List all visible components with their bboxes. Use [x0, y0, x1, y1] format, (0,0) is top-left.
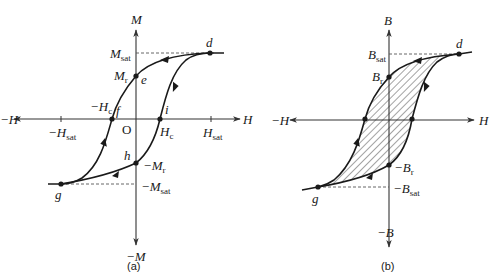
origin-label: O: [122, 122, 131, 137]
panel-a: M −M H −H O Msat Mr −Mr −Msat −Hc Hc Hsa…: [0, 12, 253, 272]
point-h: [133, 160, 138, 165]
neg-b-r-label: −Br: [394, 160, 414, 177]
point-g: [58, 181, 63, 186]
point-g-label: g: [312, 191, 319, 206]
point-g-label: g: [55, 187, 62, 202]
m-axis-label: M: [130, 12, 143, 27]
neg-h-axis-label: −H: [0, 112, 19, 127]
arrow-icon: [100, 137, 109, 147]
point-e: [133, 73, 138, 78]
neg-b-axis-label: −B: [377, 225, 394, 240]
point-d: [456, 51, 461, 56]
m-sat-label: Msat: [109, 46, 131, 63]
point-e-label: e: [141, 72, 147, 87]
m-r-label: Mr: [113, 68, 128, 85]
point-d: [207, 50, 212, 55]
point-d-label: d: [456, 36, 463, 51]
neg-h-c-label: −Hc: [90, 99, 112, 116]
neg-h-axis-label: −H: [271, 113, 290, 128]
panel-b-caption: (b): [381, 260, 394, 272]
h-c-label: Hc: [159, 124, 173, 141]
panel-a-caption: (a): [127, 260, 140, 272]
point-h-c: [409, 116, 414, 121]
point-f: [109, 116, 114, 121]
point-i-label: i: [165, 102, 169, 117]
hysteresis-figure: M −M H −H O Msat Mr −Mr −Msat −Hc Hc Hsa…: [0, 0, 504, 278]
neg-b-sat-label: −Bsat: [393, 181, 420, 198]
b-sat-label: Bsat: [368, 47, 386, 64]
point-h-label: h: [124, 148, 131, 163]
point-neg-h-c: [362, 116, 367, 121]
point-f-label: f: [116, 103, 122, 118]
b-axis-label: B: [384, 13, 392, 28]
arrow-icon: [160, 56, 169, 63]
panel-b: B −B H −H Bsat Br −Br −Bsat d g (b): [271, 13, 489, 272]
h-sat-label: Hsat: [202, 125, 223, 142]
point-d-label: d: [206, 35, 213, 50]
point-b-r: [386, 74, 391, 79]
h-axis-label: H: [478, 113, 489, 128]
neg-m-r-label: −Mr: [143, 158, 166, 175]
neg-m-sat-label: −Msat: [141, 179, 171, 196]
b-r-label: Br: [372, 69, 383, 86]
point-neg-b-r: [386, 162, 391, 167]
point-i: [157, 116, 162, 121]
neg-h-sat-label: −Hsat: [48, 125, 77, 142]
h-axis-label: H: [242, 112, 253, 127]
point-g: [315, 184, 320, 189]
